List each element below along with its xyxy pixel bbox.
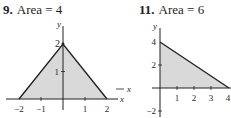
figure-9-plot: y x −2 −1 1 2 1 2 bbox=[6, 19, 124, 114]
x-tick-label: 3 bbox=[209, 93, 214, 103]
y-tick-label: 2 bbox=[55, 38, 60, 49]
y-tick-label: 1 bbox=[55, 67, 60, 77]
x-tick-label: 4 bbox=[226, 93, 231, 103]
x-axis-label: x bbox=[119, 94, 124, 104]
x-tick-label: −2 bbox=[14, 104, 24, 114]
y-tick-label: 4 bbox=[152, 37, 157, 47]
figures-canvas: y x −2 −1 1 2 1 2 y x 1 2 3 4 2 4 −2 bbox=[0, 0, 231, 118]
y-axis-label: y bbox=[56, 19, 61, 29]
y-tick-label: 2 bbox=[152, 60, 157, 70]
x-tick-label: 1 bbox=[83, 104, 88, 114]
y-tick-label: −2 bbox=[146, 106, 156, 116]
x-axis-label: x bbox=[126, 84, 131, 94]
apex-point bbox=[62, 43, 65, 46]
x-tick-label: −1 bbox=[36, 104, 46, 114]
x-tick-label: 2 bbox=[105, 104, 110, 114]
y-axis-label: y bbox=[152, 21, 157, 31]
figure-11-plot: y x 1 2 3 4 2 4 −2 bbox=[116, 21, 231, 117]
x-tick-label: 1 bbox=[175, 93, 180, 103]
x-tick-label: 2 bbox=[192, 93, 197, 103]
